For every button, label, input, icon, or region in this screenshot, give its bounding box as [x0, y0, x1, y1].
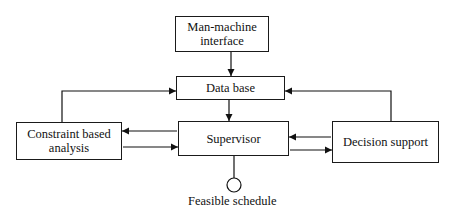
- output-terminal-icon: [227, 178, 241, 192]
- node-decision-support: Decision support: [332, 121, 439, 163]
- node-constraint-based-analysis: Constraint based analysis: [16, 122, 122, 160]
- node-label: Constraint based: [27, 127, 111, 141]
- node-man-machine-interface: Man-machine interface: [175, 16, 269, 52]
- node-label: analysis: [49, 141, 89, 155]
- node-label: Data base: [206, 81, 255, 95]
- node-label: Decision support: [343, 135, 428, 149]
- node-label: Man-machine: [187, 20, 256, 34]
- node-database: Data base: [176, 76, 285, 100]
- node-supervisor: Supervisor: [178, 121, 289, 156]
- node-label: Supervisor: [206, 132, 260, 146]
- arrow-constraint-to-database: [62, 91, 176, 122]
- arrow-decision-to-database: [285, 91, 391, 121]
- node-label: interface: [200, 34, 244, 48]
- output-label: Feasible schedule: [188, 194, 277, 209]
